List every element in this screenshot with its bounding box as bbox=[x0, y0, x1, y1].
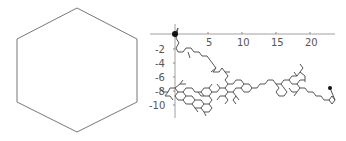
end-marker bbox=[328, 86, 332, 90]
x-tick-15: 15 bbox=[271, 37, 284, 48]
walk-plot: 5 10 15 20 -2 -4 -6 -8 -10 bbox=[140, 0, 346, 141]
start-marker bbox=[172, 31, 178, 37]
y-tick-neg10: -10 bbox=[149, 100, 165, 111]
y-tick-neg2: -2 bbox=[155, 44, 165, 55]
hexagon-figure bbox=[0, 0, 140, 141]
y-tick-neg4: -4 bbox=[155, 58, 165, 69]
x-ticks: 5 10 15 20 bbox=[206, 32, 318, 48]
x-tick-20: 20 bbox=[305, 37, 318, 48]
hexagon-shape bbox=[17, 8, 137, 132]
y-tick-neg6: -6 bbox=[155, 72, 165, 83]
x-tick-10: 10 bbox=[237, 37, 250, 48]
y-ticks: -2 -4 -6 -8 -10 bbox=[149, 44, 175, 111]
x-tick-5: 5 bbox=[206, 37, 212, 48]
